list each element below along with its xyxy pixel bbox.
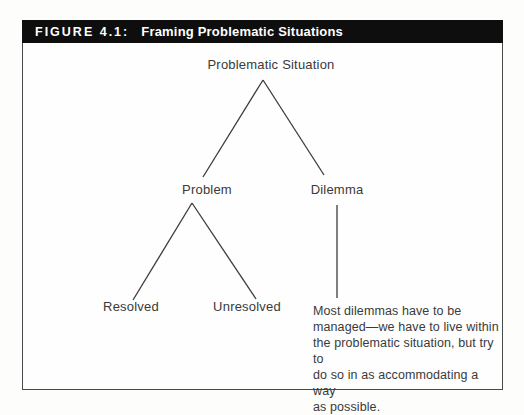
dilemma-note-line: do so in as accommodating a way [313,367,503,399]
figure-box: FIGURE 4.1: Framing Problematic Situatio… [22,20,503,390]
node-unresolved: Unresolved [213,299,281,314]
figure-header: FIGURE 4.1: Framing Problematic Situatio… [22,20,503,43]
node-resolved: Resolved [103,299,159,314]
figure-label: FIGURE 4.1: [35,25,129,39]
node-dilemma: Dilemma [311,182,364,197]
node-problematic-situation: Problematic Situation [207,57,334,72]
dilemma-note-line: the problematic situation, but try to [313,335,503,367]
tree-diagram: Problematic Situation Problem Dilemma Re… [23,43,502,390]
dilemma-note: Most dilemmas have to be managed—we have… [313,303,503,415]
node-problem: Problem [182,182,232,197]
dilemma-note-line: Most dilemmas have to be [313,303,503,319]
dilemma-note-line: as possible. [313,399,503,415]
figure-title: Framing Problematic Situations [141,24,343,39]
dilemma-note-line: managed—we have to live within [313,319,503,335]
